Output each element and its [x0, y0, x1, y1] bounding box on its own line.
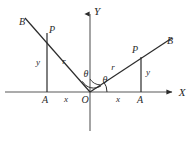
left-hypotenuse-label-r: r — [62, 57, 66, 66]
geometry-figure: X Y O B P A y x r B P A y x r θ θ — [0, 0, 191, 144]
left-foot-label-a: A — [42, 95, 48, 105]
left-leg-horizontal-label-x: x — [64, 95, 68, 104]
figure-canvas — [0, 0, 191, 144]
left-ray-endpoint-label-b: B — [19, 17, 25, 27]
x-axis-label: X — [179, 87, 186, 98]
theta-label-lower: θ — [103, 75, 108, 85]
right-point-label-p: P — [132, 45, 138, 55]
angle-arc-theta-y — [90, 79, 100, 85]
left-point-label-p: P — [49, 25, 55, 35]
left-ray-op-to-b — [25, 18, 90, 92]
left-leg-vertical-label-y: y — [36, 58, 40, 67]
origin-label: O — [81, 95, 88, 105]
theta-label-upper: θ — [84, 69, 89, 79]
right-hypotenuse-label-r: r — [111, 63, 115, 72]
right-leg-horizontal-label-x: x — [116, 95, 120, 104]
right-leg-vertical-label-y: y — [146, 68, 150, 77]
right-ray-endpoint-label-b: B — [167, 36, 173, 46]
y-axis-label: Y — [94, 6, 100, 17]
right-foot-label-a: A — [137, 95, 143, 105]
